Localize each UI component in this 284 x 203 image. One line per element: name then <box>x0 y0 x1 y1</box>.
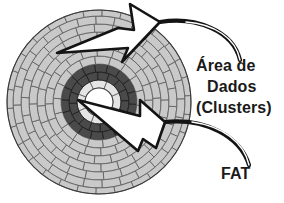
disk-sector <box>87 139 103 148</box>
disk-diagram-figure: Área de Dados (Clusters) FAT <box>0 0 284 203</box>
disk-sector <box>94 155 112 164</box>
label-clusters: (Clusters) <box>196 100 272 116</box>
disk-sector <box>37 88 46 106</box>
disk-sector <box>95 56 111 65</box>
disk-sector <box>85 171 104 180</box>
label-area-de: Área de <box>196 58 255 74</box>
disk-sector <box>168 88 177 107</box>
label-fat: FAT <box>221 166 250 182</box>
disk-sector <box>21 97 30 116</box>
label-dados: Dados <box>207 79 256 95</box>
